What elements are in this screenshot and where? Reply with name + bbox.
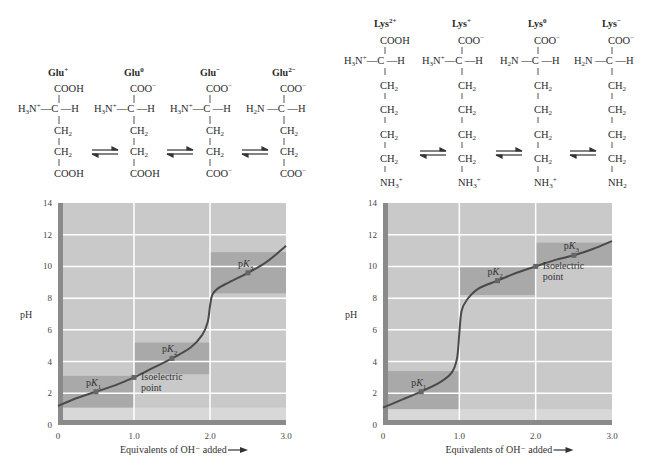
y-tick-label: 0: [373, 420, 378, 430]
x-axis-label: Equivalents of OH⁻ added: [446, 444, 553, 455]
y-tick-label: 12: [43, 230, 52, 240]
y-tick-label: 2: [48, 388, 53, 398]
y-tick-label: 4: [373, 357, 378, 367]
x-axis-label: Equivalents of OH⁻ added: [120, 444, 227, 455]
y-tick-label: 12: [368, 230, 377, 240]
y-tick-label: 10: [368, 261, 378, 271]
y-tick-label: 6: [373, 325, 378, 335]
y-tick-label: 10: [43, 261, 53, 271]
y-tick-label: 6: [48, 325, 53, 335]
y-tick-label: 8: [373, 293, 378, 303]
y-tick-label: 8: [48, 293, 53, 303]
isoelectric-point-label: Isoelectric: [141, 371, 183, 382]
y-tick-label: 0: [48, 420, 53, 430]
x-tick-label: 1.0: [454, 431, 466, 441]
x-tick-label: 2.0: [204, 431, 216, 441]
y-axis-label: pH: [20, 309, 32, 320]
y-axis: [383, 203, 388, 425]
glutamate-titration-chart: 0246810121401.02.03.0pHEquivalents of OH…: [20, 198, 292, 455]
x-tick-label: 2.0: [530, 431, 542, 441]
svg-text:point: point: [141, 382, 162, 393]
isoelectric-point-label: Isoelectric: [543, 260, 585, 271]
x-axis: [58, 420, 286, 425]
x-tick-label: 3.0: [280, 431, 292, 441]
y-tick-label: 14: [368, 198, 378, 208]
titration-charts: 0246810121401.02.03.0pHEquivalents of OH…: [0, 0, 651, 466]
arrow-right-icon: [240, 447, 248, 453]
x-axis: [383, 420, 612, 425]
x-tick-label: 1.0: [128, 431, 140, 441]
data-point-marker: [132, 375, 137, 380]
svg-text:point: point: [543, 271, 564, 282]
y-axis-label: pH: [345, 309, 357, 320]
y-tick-label: 2: [373, 388, 378, 398]
x-tick-label: 3.0: [606, 431, 618, 441]
y-axis: [58, 203, 63, 425]
data-point-marker: [533, 264, 538, 269]
lysine-titration-chart: 0246810121401.02.03.0pHEquivalents of OH…: [345, 198, 618, 455]
arrow-right-icon: [566, 447, 574, 453]
x-tick-label: 0: [381, 431, 386, 441]
y-tick-label: 14: [43, 198, 53, 208]
x-tick-label: 0: [56, 431, 61, 441]
y-tick-label: 4: [48, 357, 53, 367]
